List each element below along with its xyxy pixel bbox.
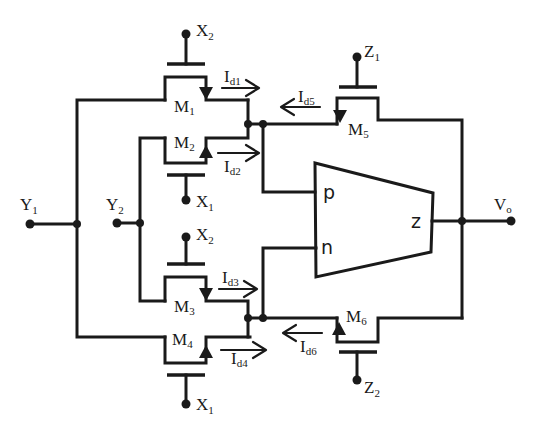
svg-text:Id1: Id1 xyxy=(224,67,241,87)
transistor-m4: X1 M4 xyxy=(165,330,250,416)
current-arrow-id3: Id3 xyxy=(219,268,257,297)
current-arrow-id6: Id6 xyxy=(283,325,322,357)
m4-source-arrow-icon xyxy=(199,345,213,358)
m3-label: M3 xyxy=(174,297,195,317)
m2-gate-label: X1 xyxy=(196,192,214,213)
y2-label: Y2 xyxy=(106,195,124,216)
current-arrow-id4: Id4 xyxy=(221,342,266,369)
transistor-m1: X2 M1 xyxy=(165,21,248,117)
active-block: p n z xyxy=(315,163,433,277)
m5-source-arrow-icon xyxy=(333,110,347,123)
port-p-label: p xyxy=(323,181,335,203)
port-n-label: n xyxy=(321,236,333,258)
svg-text:Id2: Id2 xyxy=(224,157,241,177)
m6-source-arrow-icon xyxy=(332,322,346,335)
port-z-label: z xyxy=(411,210,421,232)
vo-label: Vo xyxy=(494,195,512,215)
m6-label: M6 xyxy=(346,307,367,327)
current-arrow-id2: Id2 xyxy=(218,145,259,177)
transistor-m5: Z1 M5 xyxy=(333,42,462,318)
svg-text:Id5: Id5 xyxy=(298,87,315,107)
svg-text:Id4: Id4 xyxy=(231,349,248,369)
m5-label: M5 xyxy=(348,120,369,140)
lower-node xyxy=(244,248,337,322)
m1-label: M1 xyxy=(174,97,195,117)
y1-label: Y1 xyxy=(20,195,38,216)
current-arrow-id1: Id1 xyxy=(222,67,259,96)
svg-text:Id3: Id3 xyxy=(222,268,239,288)
m4-label: M4 xyxy=(172,330,193,350)
right-arrow-icon xyxy=(221,342,266,358)
y2-terminal: Y2 xyxy=(106,195,144,228)
output-terminal: Vo xyxy=(432,195,516,226)
m6-gate-label: Z2 xyxy=(364,378,380,399)
m3-source-arrow-icon xyxy=(199,288,213,301)
y2-bus-wire xyxy=(140,138,165,301)
transistor-m2: X1 M2 xyxy=(165,100,248,213)
m2-label: M2 xyxy=(174,133,195,153)
m4-gate-label: X1 xyxy=(196,395,214,416)
m1-source-arrow-icon xyxy=(199,87,213,100)
m2-source-arrow-icon xyxy=(199,145,213,158)
m5-gate-label: Z1 xyxy=(364,42,380,63)
svg-text:Id6: Id6 xyxy=(300,337,317,357)
y1-terminal: Y1 xyxy=(20,195,81,229)
circuit-diagram: Y1 Y2 X2 M1 Id1 X1 M2 Id2 xyxy=(0,0,534,440)
m1-gate-label: X2 xyxy=(196,21,214,42)
current-arrow-id5: Id5 xyxy=(281,87,320,115)
transistor-m6: Z2 M6 xyxy=(332,307,462,399)
m3-gate-label: X2 xyxy=(196,225,214,246)
